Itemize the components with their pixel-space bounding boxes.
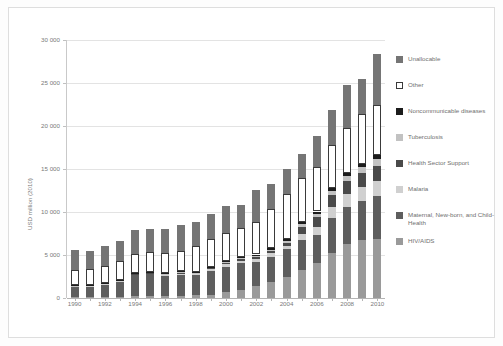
bar-segment <box>373 54 381 105</box>
legend-swatch-icon <box>396 212 403 219</box>
y-tick-label: 0 <box>14 294 60 301</box>
legend-item[interactable]: Malaria <box>396 185 496 211</box>
bar-segment <box>192 272 200 273</box>
y-axis-title: USD million (2010) <box>26 178 33 230</box>
bar-segment <box>283 249 291 276</box>
bar-segment <box>252 257 260 259</box>
bar-segment <box>373 239 381 298</box>
legend-item[interactable]: Tuberculosis <box>396 133 496 159</box>
bar-segment <box>71 270 79 285</box>
legend-swatch-icon <box>396 238 403 245</box>
bar-segment <box>328 218 336 253</box>
bar-segment <box>358 167 366 173</box>
legend-item[interactable]: Maternal, New-born, and Child-Health <box>396 211 496 237</box>
bar-segment <box>161 253 169 273</box>
bar-segment <box>146 273 154 274</box>
bar-1992 <box>101 40 109 298</box>
bar-segment <box>131 230 139 253</box>
bar-segment <box>237 257 245 258</box>
bar-segment <box>237 258 245 259</box>
bar-segment <box>313 136 321 167</box>
plot-area: 1990199219941996199820002002200420062008… <box>66 40 384 298</box>
bar-1991 <box>86 40 94 298</box>
y-tick-mark <box>63 169 66 170</box>
bar-segment <box>252 286 260 298</box>
bar-segment <box>101 266 109 282</box>
bar-segment <box>298 222 306 224</box>
bar-segment <box>252 190 260 222</box>
bar-segment <box>373 155 381 159</box>
bar-1998 <box>192 40 200 298</box>
bar-segment <box>358 187 366 201</box>
bar-segment <box>313 167 321 211</box>
legend-item[interactable]: Unallocable <box>396 55 496 81</box>
bar-segment <box>237 205 245 228</box>
bar-segment <box>222 267 230 292</box>
bar-segment <box>313 212 321 214</box>
bar-segment <box>116 280 124 281</box>
x-tick-label: 1998 <box>181 300 211 307</box>
bar-2007 <box>328 40 336 298</box>
bar-segment <box>313 214 321 217</box>
bar-segment <box>373 166 381 181</box>
bar-segment <box>116 261 124 280</box>
bar-segment <box>237 263 245 290</box>
bar-segment <box>207 268 215 269</box>
legend-label: Maternal, New-born, and Child-Health <box>408 211 496 226</box>
bar-segment <box>283 239 291 241</box>
legend-item[interactable]: Noncommunicable diseases <box>396 107 496 133</box>
bar-segment <box>313 263 321 298</box>
legend-item[interactable]: Other <box>396 81 496 107</box>
legend-item[interactable]: Health Sector Support <box>396 159 496 185</box>
bar-2010 <box>373 40 381 298</box>
legend-item[interactable]: HIV/AIDS <box>396 237 496 263</box>
bar-segment <box>298 227 306 235</box>
legend-label: Other <box>408 81 423 89</box>
bar-2009 <box>358 40 366 298</box>
bar-segment <box>131 275 139 296</box>
bar-segment <box>252 259 260 262</box>
bar-segment <box>283 246 291 250</box>
y-tick-mark <box>63 83 66 84</box>
bar-segment <box>207 239 215 266</box>
bar-segment <box>177 225 185 252</box>
bar-segment <box>146 273 154 274</box>
bar-segment <box>131 274 139 275</box>
bar-segment <box>298 240 306 270</box>
legend-label: HIV/AIDS <box>408 237 434 245</box>
bar-2005 <box>298 40 306 298</box>
bar-2001 <box>237 40 245 298</box>
bar-segment <box>222 233 230 261</box>
bar-segment <box>177 273 185 274</box>
bar-2006 <box>313 40 321 298</box>
bar-segment <box>131 254 139 273</box>
x-tick-label: 2006 <box>302 300 332 307</box>
bar-segment <box>146 252 154 271</box>
bar-segment <box>343 85 351 128</box>
bar-segment <box>237 290 245 298</box>
bar-segment <box>192 274 200 275</box>
bar-segment <box>373 196 381 239</box>
legend-label: Health Sector Support <box>408 159 469 167</box>
x-tick-label: 1990 <box>60 300 90 307</box>
bar-segment <box>252 262 260 286</box>
x-tick-label: 2008 <box>332 300 362 307</box>
bar-segment <box>328 110 336 145</box>
bar-segment <box>313 227 321 235</box>
bar-segment <box>177 272 185 273</box>
bar-segment <box>328 191 336 195</box>
bar-segment <box>358 79 366 114</box>
legend-label: Noncommunicable diseases <box>408 107 485 115</box>
bar-segment <box>161 276 169 296</box>
bar-segment <box>373 181 381 196</box>
y-tick-mark <box>63 255 66 256</box>
bar-segment <box>343 207 351 244</box>
bar-segment <box>101 284 109 296</box>
bar-segment <box>192 273 200 274</box>
bar-segment <box>222 263 230 265</box>
bar-segment <box>222 262 230 263</box>
bar-segment <box>161 275 169 276</box>
bar-segment <box>177 273 185 274</box>
y-tick-label: 5 000 <box>14 251 60 258</box>
bar-segment <box>267 209 275 249</box>
